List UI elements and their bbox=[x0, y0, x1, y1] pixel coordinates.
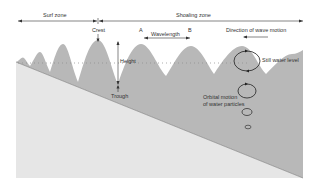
orbital-label-1: Orbital motion bbox=[203, 94, 237, 100]
surf-zone-label: Surf zone bbox=[43, 12, 67, 18]
arrowhead bbox=[18, 20, 22, 23]
trough-label: Trough bbox=[111, 93, 128, 99]
arrowhead bbox=[243, 36, 247, 39]
arrowhead bbox=[299, 20, 303, 23]
wavelength-label: Wavelength bbox=[151, 31, 180, 37]
orbital-label-2: of water particles bbox=[203, 101, 245, 107]
still-water-level-label: Still water level bbox=[262, 57, 299, 63]
wave-diagram: Surf zone Shoaling zone Crest A B Wavele… bbox=[0, 0, 319, 186]
arrowhead bbox=[93, 20, 97, 23]
arrowhead bbox=[144, 37, 148, 40]
arrowhead bbox=[99, 20, 103, 23]
arrowhead bbox=[186, 37, 190, 40]
arrowhead bbox=[117, 41, 120, 45]
height-label: Height bbox=[120, 58, 136, 64]
direction-label: Direction of wave motion bbox=[226, 27, 286, 33]
point-a-label: A bbox=[139, 27, 143, 33]
shoaling-zone-label: Shoaling zone bbox=[176, 12, 211, 18]
crest-label: Crest bbox=[92, 27, 106, 33]
point-b-label: B bbox=[188, 27, 192, 33]
